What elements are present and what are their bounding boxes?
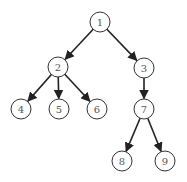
- edge-7-9: [148, 118, 161, 151]
- tree-node-9: 9: [155, 151, 175, 171]
- tree-diagram: 123456789: [0, 0, 187, 182]
- node-label: 3: [141, 63, 147, 74]
- node-label: 6: [94, 104, 100, 115]
- edge-7-8: [126, 118, 140, 151]
- edge-2-6: [65, 74, 90, 101]
- tree-node-1: 1: [90, 12, 110, 32]
- node-label: 8: [119, 156, 125, 167]
- node-label: 7: [141, 104, 147, 115]
- edges-layer: [28, 29, 161, 151]
- tree-node-7: 7: [134, 99, 154, 119]
- edge-1-3: [107, 29, 137, 60]
- node-label: 2: [55, 62, 61, 73]
- node-label: 5: [56, 104, 62, 115]
- node-label: 9: [162, 156, 168, 167]
- tree-node-8: 8: [112, 151, 132, 171]
- edge-1-2: [65, 29, 93, 59]
- edge-2-5: [58, 77, 59, 99]
- tree-node-6: 6: [87, 99, 107, 119]
- tree-node-3: 3: [134, 58, 154, 78]
- node-label: 4: [18, 104, 24, 115]
- tree-node-2: 2: [48, 57, 68, 77]
- tree-node-4: 4: [11, 99, 31, 119]
- node-label: 1: [97, 17, 103, 28]
- tree-node-5: 5: [49, 99, 69, 119]
- edge-2-4: [28, 75, 51, 102]
